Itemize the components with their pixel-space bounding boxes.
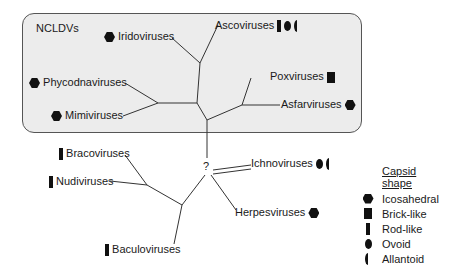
branch-to-bacu-node xyxy=(182,175,205,205)
branch-pox-asfar-node xyxy=(207,105,242,120)
icosahedral-icon xyxy=(363,194,374,204)
allantoid-icon xyxy=(365,253,371,265)
unknown-node-label: ? xyxy=(203,160,209,172)
rod-like-icon xyxy=(277,20,281,32)
rod-like-icon xyxy=(49,176,53,188)
taxon-baculoviruses: Baculoviruses xyxy=(105,243,181,256)
branch-poxviruses xyxy=(242,78,251,105)
taxon-bracoviruses: Bracoviruses xyxy=(59,147,130,160)
icosahedral-icon xyxy=(29,78,40,88)
taxon-nudiviruses: Nudiviruses xyxy=(49,175,114,188)
rod-like-icon xyxy=(59,148,63,160)
icosahedral-icon xyxy=(51,111,62,121)
branch-phycodnaviruses xyxy=(125,83,158,103)
branch-mimiviruses xyxy=(123,103,158,116)
capsid-shape-legend: Capsid shape Icosahedral Brick-like Rod-… xyxy=(360,165,449,266)
taxon-poxviruses: Poxviruses xyxy=(270,70,335,83)
branch-iridoviruses xyxy=(172,38,200,63)
taxon-iridoviruses: Iridoviruses xyxy=(104,30,174,42)
icosahedral-icon xyxy=(104,32,115,42)
icosahedral-icon xyxy=(345,100,356,110)
allantoid-icon xyxy=(294,20,300,32)
icosahedral-icon xyxy=(308,208,319,218)
taxon-ascoviruses: Ascoviruses xyxy=(215,19,300,32)
legend-item-rod-like: Rod-like xyxy=(360,221,449,236)
taxon-mimiviruses: Mimiviruses xyxy=(51,109,123,121)
allantoid-icon xyxy=(326,158,332,170)
branch-nudiviruses xyxy=(110,181,147,185)
ovoid-icon xyxy=(284,21,291,31)
rod-like-icon xyxy=(366,223,370,235)
legend-item-brick-like: Brick-like xyxy=(360,206,449,221)
taxon-phycodnaviruses: Phycodnaviruses xyxy=(29,76,127,88)
branch-ncldv-stem xyxy=(197,103,207,120)
branch-to-braco-nudi-node xyxy=(147,185,182,205)
brick-like-icon xyxy=(327,72,335,83)
legend-item-ovoid: Ovoid xyxy=(360,236,449,251)
legend-item-allantoid: Allantoid xyxy=(360,251,449,266)
taxon-ichnoviruses: Ichnoviruses xyxy=(251,157,332,170)
taxon-asfarviruses: Asfarviruses xyxy=(281,98,356,110)
ovoid-icon xyxy=(365,239,372,249)
legend-item-icosahedral: Icosahedral xyxy=(360,191,449,206)
branch-baculoviruses xyxy=(174,205,182,244)
branch-irido-asco-node xyxy=(197,63,200,103)
taxon-herpesviruses: Herpesviruses xyxy=(235,206,319,218)
legend-title: Capsid shape xyxy=(382,165,449,189)
ovoid-icon xyxy=(316,159,323,169)
branch-herpesviruses xyxy=(211,175,236,210)
brick-like-icon xyxy=(364,208,372,219)
rod-like-icon xyxy=(105,244,109,256)
